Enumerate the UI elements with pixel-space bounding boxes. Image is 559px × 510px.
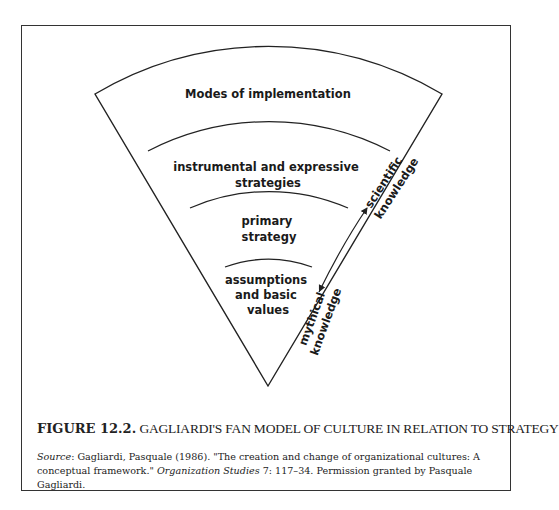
- source-label: Source: [37, 451, 71, 462]
- figure-caption: FIGURE 12.2. GAGLIARDI'S FAN MODEL OF CU…: [37, 421, 507, 437]
- figure-source: Source: Gagliardi, Pasquale (1986). "The…: [37, 450, 502, 492]
- layer-instrumental-label: instrumental and expressive strategies: [173, 160, 363, 190]
- knowledge-arrow: [319, 208, 367, 292]
- figure-number: FIGURE 12.2.: [37, 421, 136, 436]
- source-journal: Organization Studies: [157, 465, 260, 476]
- figure-title: GAGLIARDI'S FAN MODEL OF CULTURE IN RELA…: [139, 421, 558, 436]
- arc-assumptions: [225, 259, 312, 267]
- layer-modes-label: Modes of implementation: [185, 87, 351, 101]
- mythical-knowledge-label: mythical knowledge: [294, 281, 344, 357]
- arc-primary: [190, 192, 348, 208]
- layer-assumptions-label: assumptions and basic values: [225, 273, 311, 317]
- arc-instrumental: [148, 122, 390, 151]
- scientific-knowledge-label: scientific knowledge: [360, 147, 422, 221]
- layer-primary-label: primary strategy: [242, 214, 297, 244]
